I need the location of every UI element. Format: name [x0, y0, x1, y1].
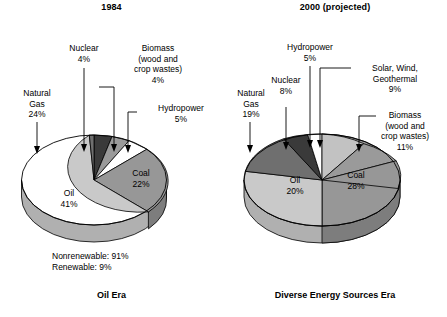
chart-panel-1984: 1984 Natural Gas 24% Nuclear 4% Biomass …	[0, 0, 223, 317]
era-label-1984: Oil Era	[0, 290, 223, 300]
slice-label-line: 22%	[119, 179, 163, 190]
era-label-2000: Diverse Energy Sources Era	[223, 290, 447, 300]
slice-label-line: Coal	[332, 170, 380, 181]
slice-label-oil-2000: Oil 20%	[275, 175, 315, 196]
summary-nonrenewable: Nonrenewable: 91%	[52, 251, 129, 262]
summary-1984: Nonrenewable: 91% Renewable: 9%	[52, 251, 129, 273]
slice-label-line: Coal	[119, 168, 163, 179]
chart-panel-2000: 2000 (projected) Natural Gas 19% Nuclear…	[223, 0, 447, 317]
slice-label-line: Oil	[275, 175, 315, 186]
summary-renewable: Renewable: 9%	[52, 262, 129, 273]
slice-label-line: 20%	[275, 186, 315, 197]
pie-chart-2000	[223, 0, 447, 317]
slice-label-coal-1984: Coal 22%	[119, 168, 163, 189]
slice-label-line: 41%	[48, 199, 90, 210]
slice-label-line: Oil	[48, 188, 90, 199]
slice-label-line: 28%	[332, 181, 380, 192]
slice-label-oil-1984: Oil 41%	[48, 188, 90, 209]
energy-sources-pie-figure: 1984 Natural Gas 24% Nuclear 4% Biomass …	[0, 0, 447, 317]
slice-label-coal-2000: Coal 28%	[332, 170, 380, 191]
